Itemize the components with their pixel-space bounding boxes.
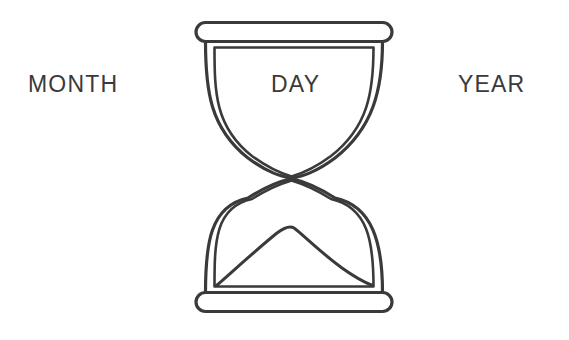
label-day: DAY <box>271 73 320 96</box>
sand-mound <box>217 227 373 285</box>
top-cap <box>196 23 392 42</box>
label-month: MONTH <box>28 73 118 96</box>
diagram-canvas: MONTH DAY YEAR <box>0 0 569 340</box>
lower-bulb-outer-wall <box>206 179 383 293</box>
upper-chamber <box>215 48 374 177</box>
hourglass-outer-outline <box>196 23 392 312</box>
label-year: YEAR <box>458 73 525 96</box>
hourglass-icon <box>0 0 569 340</box>
lower-chamber <box>215 181 374 287</box>
bottom-cap <box>196 293 392 312</box>
upper-bulb-outer-wall <box>206 42 383 179</box>
